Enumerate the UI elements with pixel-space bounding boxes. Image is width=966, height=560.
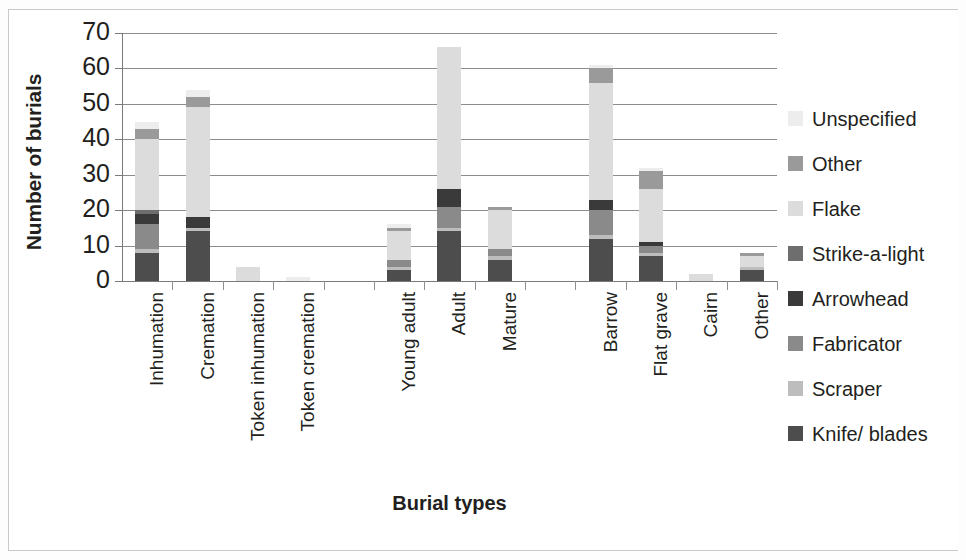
bar-segment[interactable] [186,97,210,108]
bar-slot [727,33,777,281]
bar-segment[interactable] [639,189,663,242]
y-tick-label: 40 [48,125,110,150]
bar-slot [626,33,676,281]
x-tick-mark [172,281,173,290]
stacked-bar[interactable] [740,253,764,281]
x-tick-label: Token inhumation [248,292,267,441]
x-label-slot: Inhumation [122,292,172,467]
x-tick-label: Other [752,292,771,340]
stacked-bar[interactable] [639,168,663,281]
x-axis-title: Burial types [122,492,777,515]
bar-segment[interactable] [437,207,461,228]
y-tick-label: 20 [48,196,110,221]
legend-swatch-icon [788,201,803,216]
bar-segment[interactable] [186,231,210,281]
x-label-slot: Token inhumation [223,292,273,467]
legend-item[interactable]: Flake [788,186,963,231]
x-label-slot: Young adult [374,292,424,467]
y-tick-label: 10 [48,232,110,257]
stacked-bar[interactable] [186,90,210,281]
bar-segment[interactable] [639,246,663,253]
bar-segment[interactable] [135,253,159,281]
stacked-bar[interactable] [689,274,713,281]
bar-segment[interactable] [589,239,613,282]
bar-segment[interactable] [387,260,411,267]
y-tick-label: 60 [48,54,110,79]
bar-segment[interactable] [740,270,764,281]
x-tick-mark [525,281,526,290]
stacked-bar[interactable] [437,47,461,281]
y-axis-title: Number of burials [22,32,46,292]
bar-slot [676,33,726,281]
y-tick-label: 70 [48,19,110,44]
legend-label: Other [812,154,862,174]
legend-label: Fabricator [812,334,902,354]
bar-segment[interactable] [437,47,461,189]
stacked-bar[interactable] [589,65,613,281]
bar-segment[interactable] [639,171,663,189]
bar-segment[interactable] [639,256,663,281]
bar-segment[interactable] [387,270,411,281]
plot-area [122,33,777,281]
legend: UnspecifiedOtherFlakeStrike-a-lightArrow… [788,96,963,456]
legend-item[interactable]: Other [788,141,963,186]
legend-item[interactable]: Scraper [788,366,963,411]
bar-segment[interactable] [437,189,461,207]
x-tick-label: Token cremation [298,292,317,431]
bar-segment[interactable] [186,90,210,97]
x-tick-mark [626,281,627,290]
bar-segment[interactable] [135,139,159,210]
bar-segment[interactable] [488,210,512,249]
stacked-bar[interactable] [488,207,512,281]
legend-swatch-icon [788,111,803,126]
bar-segment[interactable] [589,200,613,211]
bar-segment[interactable] [186,107,210,217]
bar-slot [324,33,374,281]
legend-swatch-icon [788,426,803,441]
stacked-bar[interactable] [387,224,411,281]
legend-label: Strike-a-light [812,244,924,264]
x-tick-labels: InhumationCremationToken inhumationToken… [122,292,777,467]
bar-segment[interactable] [689,274,713,281]
bar-segment[interactable] [387,231,411,259]
legend-swatch-icon [788,246,803,261]
bar-slot [374,33,424,281]
legend-item[interactable]: Arrowhead [788,276,963,321]
x-tick-label: Young adult [399,292,418,392]
bar-segment[interactable] [236,267,260,281]
x-label-slot: Flat grave [626,292,676,467]
legend-item[interactable]: Unspecified [788,96,963,141]
bar-segment[interactable] [589,83,613,200]
x-label-slot: Cairn [676,292,726,467]
x-tick-mark [273,281,274,290]
bar-segment[interactable] [589,68,613,82]
bar-segment[interactable] [488,249,512,256]
bar-segment[interactable] [589,210,613,235]
x-axis-ticks [122,281,777,290]
x-tick-label: Barrow [601,292,620,352]
stacked-bar[interactable] [236,267,260,281]
legend-item[interactable]: Strike-a-light [788,231,963,276]
bar-segment[interactable] [740,256,764,267]
x-label-slot: Cremation [172,292,222,467]
bar-segment[interactable] [437,231,461,281]
legend-label: Knife/ blades [812,424,928,444]
x-tick-mark [374,281,375,290]
bar-segment[interactable] [135,122,159,129]
x-tick-label: Mature [500,292,519,351]
x-label-slot: Other [727,292,777,467]
legend-label: Scraper [812,379,882,399]
x-tick-mark [475,281,476,290]
bar-segment[interactable] [135,214,159,225]
x-tick-mark [575,281,576,290]
legend-item[interactable]: Knife/ blades [788,411,963,456]
bar-group [122,33,777,281]
bar-segment[interactable] [186,217,210,228]
legend-item[interactable]: Fabricator [788,321,963,366]
x-tick-mark [324,281,325,290]
bar-segment[interactable] [135,224,159,249]
bar-segment[interactable] [488,260,512,281]
x-label-slot: Adult [424,292,474,467]
stacked-bar[interactable] [135,122,159,281]
bar-segment[interactable] [135,129,159,140]
